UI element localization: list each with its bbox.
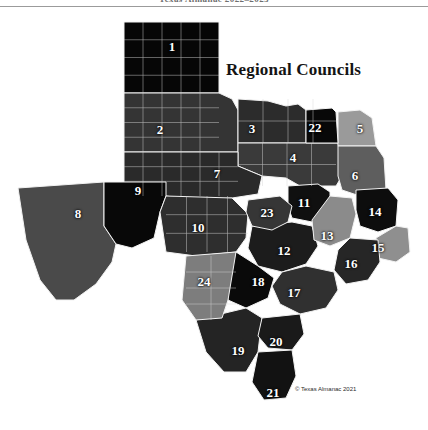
region-20[interactable] [258, 314, 304, 350]
region-9[interactable] [104, 182, 166, 248]
region-24[interactable] [182, 252, 236, 320]
region-5[interactable] [338, 110, 376, 146]
region-21[interactable] [252, 350, 296, 400]
copyright-credit: © Texas Almanac 2021 [295, 386, 356, 392]
region-8[interactable] [18, 182, 116, 300]
region-17[interactable] [272, 266, 338, 314]
texas-regional-councils-map[interactable] [0, 0, 428, 430]
region-22[interactable] [306, 108, 338, 143]
region-12[interactable] [248, 222, 318, 272]
page-title: Regional Councils [226, 60, 361, 80]
map-page: Texas Almanac 2022–2023 1234567891011121… [0, 0, 428, 430]
region-14[interactable] [356, 188, 398, 232]
region-10[interactable] [160, 196, 248, 256]
region-16[interactable] [334, 238, 380, 284]
